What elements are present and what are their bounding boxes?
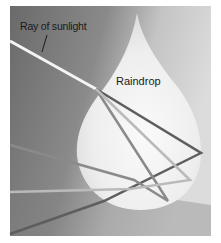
- ray-of-sunlight-label: Ray of sunlight: [20, 20, 86, 32]
- raindrop-label: Raindrop: [116, 75, 161, 87]
- rainbow-refraction-diagram: Ray of sunlight Raindrop: [0, 0, 221, 243]
- diagram-graphic: [0, 0, 221, 243]
